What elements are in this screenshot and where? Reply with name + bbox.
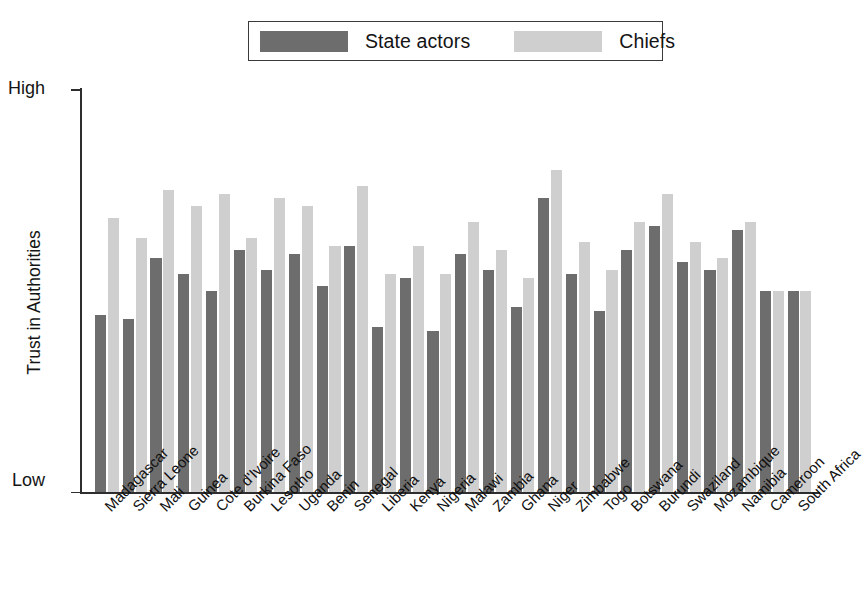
figure-caption-remnant [132, 596, 732, 610]
